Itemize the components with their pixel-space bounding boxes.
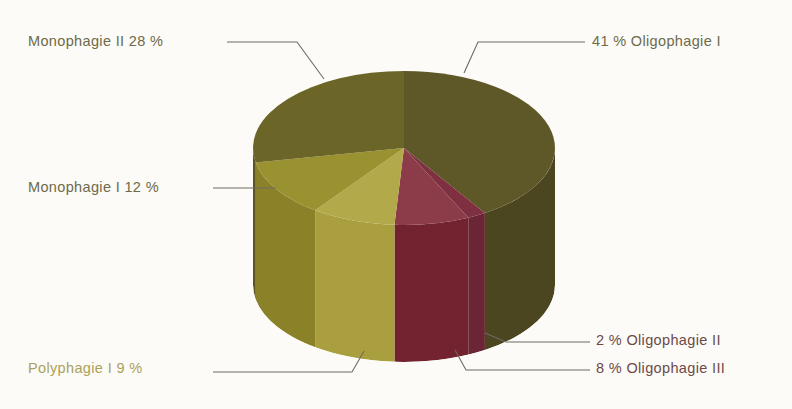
slice-label-oligophagie-1: 41 % Oligophagie I xyxy=(592,34,721,49)
leader-monophagie-2 xyxy=(227,42,324,79)
pie-chart-figure: Monophagie II 28 % 41 % Oligophagie I Mo… xyxy=(0,0,792,409)
side-oligophagie-2 xyxy=(468,213,485,355)
side-monophagie-2 xyxy=(253,148,256,299)
slice-monophagie-2 xyxy=(253,71,404,162)
leader-oligophagie-3 xyxy=(455,350,590,370)
slice-label-monophagie-1: Monophagie I 12 % xyxy=(28,180,159,195)
side-oligophagie-3 xyxy=(395,218,469,362)
slice-label-oligophagie-3: 8 % Oligophagie III xyxy=(596,361,725,376)
side-polyphagie-1 xyxy=(315,210,394,361)
slice-label-monophagie-2: Monophagie II 28 % xyxy=(28,34,163,49)
slice-label-oligophagie-2: 2 % Oligophagie II xyxy=(596,333,721,348)
pie-top-face xyxy=(253,71,555,225)
slice-label-polyphagie-1: Polyphagie I 9 % xyxy=(28,361,142,376)
leader-oligophagie-1 xyxy=(464,42,585,73)
